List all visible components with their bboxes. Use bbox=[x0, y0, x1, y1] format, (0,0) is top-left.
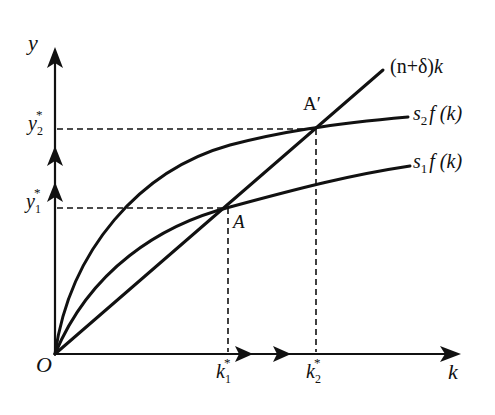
axes bbox=[55, 58, 452, 354]
point-a-label: A bbox=[231, 211, 245, 232]
s2-curve-label: s2f (k) bbox=[413, 102, 462, 128]
k2-star-label: k2* bbox=[306, 355, 321, 386]
y-axis-label: y bbox=[26, 30, 38, 55]
y1-star-label: y1* bbox=[24, 185, 41, 216]
s2-curve bbox=[55, 117, 408, 354]
s1-curve-label: s1f (k) bbox=[413, 150, 462, 176]
y2-star-label: y2* bbox=[26, 107, 43, 138]
origin-label: O bbox=[36, 352, 52, 377]
point-a-prime-label: A′ bbox=[303, 93, 321, 114]
s1-curve bbox=[55, 166, 410, 354]
arrowheads bbox=[47, 47, 461, 362]
x-axis-label: k bbox=[448, 359, 459, 384]
depreciation-label: (n+δ)k bbox=[390, 55, 444, 78]
k1-star-label: k1* bbox=[216, 355, 231, 386]
solow-diagram: y k O (n+δ)k s2f (k) s1f (k) A A′ y2* y1… bbox=[0, 0, 495, 415]
depreciation-line bbox=[55, 70, 383, 354]
